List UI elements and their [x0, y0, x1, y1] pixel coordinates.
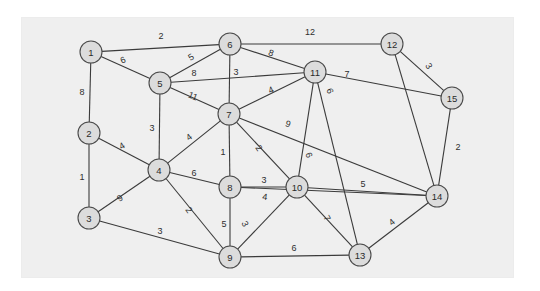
graph-edge: [229, 125, 230, 176]
edge-weight-label: 6: [324, 87, 335, 95]
edge-weight-label: 8: [191, 68, 196, 78]
graph-node-8[interactable]: 8: [219, 176, 241, 198]
edge-weights-layer: 268149334625811381241293453665776324: [79, 27, 460, 253]
graph-edge: [241, 187, 426, 195]
graph-node-2[interactable]: 2: [78, 122, 100, 144]
node-label: 5: [157, 78, 162, 89]
graph-node-7[interactable]: 7: [218, 103, 240, 125]
graph-edge: [159, 94, 160, 159]
node-label: 2: [86, 128, 91, 139]
graph-edge: [326, 74, 441, 96]
edge-weight-label: 2: [158, 31, 163, 41]
edge-weight-label: 3: [157, 226, 162, 236]
graph-edge: [237, 122, 290, 179]
graph-edge: [439, 109, 451, 185]
graph-edge: [395, 55, 434, 186]
node-label: 8: [227, 182, 232, 193]
graph-node-10[interactable]: 10: [286, 176, 308, 198]
edge-weight-label: 5: [360, 179, 365, 189]
graph-edge: [168, 121, 221, 163]
edge-weight-label: 2: [455, 142, 460, 152]
graph-node-13[interactable]: 13: [349, 244, 371, 266]
edge-weight-label: 4: [387, 217, 397, 228]
graph-edge: [98, 176, 150, 212]
edge-weight-label: 4: [267, 84, 276, 95]
node-label: 4: [156, 165, 161, 176]
graph-node-1[interactable]: 1: [80, 41, 102, 63]
weighted-graph-svg: 268149334625811381241293453665776324 123…: [0, 0, 540, 291]
edge-weight-label: 5: [221, 219, 226, 229]
graph-node-9[interactable]: 9: [219, 246, 241, 268]
node-label: 15: [447, 93, 458, 104]
edge-weight-label: 4: [117, 140, 126, 151]
graph-node-4[interactable]: 4: [148, 159, 170, 181]
edge-weight-label: 8: [267, 47, 275, 58]
node-label: 6: [227, 39, 232, 50]
edge-weight-label: 4: [262, 192, 268, 203]
graph-edge: [89, 63, 90, 122]
graph-edge: [166, 179, 223, 249]
edge-weight-label: 2: [183, 205, 194, 215]
graph-figure-page: 268149334625811381241293453665776324 123…: [0, 0, 540, 291]
edge-weight-label: 6: [191, 168, 196, 178]
edge-weight-label: 3: [233, 67, 238, 77]
edge-weight-label: 3: [149, 123, 154, 133]
node-label: 3: [86, 213, 91, 224]
edge-weight-label: 3: [261, 175, 266, 185]
edge-weight-label: 1: [220, 147, 225, 157]
edge-weight-label: 12: [305, 27, 315, 37]
edge-weight-label: 3: [423, 61, 434, 71]
edge-weight-label: 3: [239, 219, 250, 228]
node-label: 10: [292, 182, 303, 193]
edge-weight-label: 2: [253, 143, 264, 153]
graph-edge: [241, 255, 349, 257]
graph-edge: [229, 55, 230, 103]
node-label: 9: [227, 252, 232, 263]
edge-weight-label: 11: [187, 90, 199, 103]
graph-node-5[interactable]: 5: [149, 72, 171, 94]
node-label: 13: [355, 250, 366, 261]
nodes-layer: 123456789101112131415: [78, 33, 463, 268]
node-label: 11: [310, 67, 320, 78]
graph-node-11[interactable]: 11: [304, 61, 326, 83]
graph-edge: [99, 138, 150, 165]
node-label: 12: [387, 39, 398, 50]
edge-weight-label: 4: [184, 131, 194, 142]
edge-weight-label: 6: [119, 54, 127, 65]
graph-node-3[interactable]: 3: [78, 207, 100, 229]
edge-weight-label: 7: [344, 69, 349, 79]
graph-edge: [299, 83, 314, 176]
node-label: 7: [226, 109, 231, 120]
edge-weight-label: 6: [303, 151, 314, 159]
edge-weight-label: 1: [79, 172, 84, 182]
graph-node-15[interactable]: 15: [441, 87, 463, 109]
graph-edge: [400, 51, 444, 90]
graph-node-14[interactable]: 14: [426, 185, 448, 207]
graph-node-12[interactable]: 12: [381, 33, 403, 55]
graph-edge: [102, 45, 219, 52]
node-label: 14: [432, 191, 443, 202]
edge-weight-label: 9: [284, 118, 292, 129]
graph-edge: [369, 203, 429, 249]
graph-edge: [304, 195, 352, 247]
edge-weight-label: 6: [291, 243, 296, 253]
edge-weight-label: 8: [79, 87, 84, 97]
edge-weight-label: 5: [186, 51, 196, 62]
node-label: 1: [88, 47, 93, 58]
graph-node-6[interactable]: 6: [219, 33, 241, 55]
